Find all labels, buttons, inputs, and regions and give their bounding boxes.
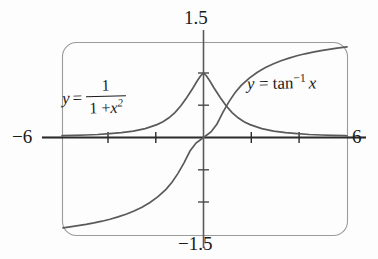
y-axis-min-label: −1.5 xyxy=(178,234,212,253)
denominator-exponent: 2 xyxy=(117,96,123,108)
y-axis-max-label: 1.5 xyxy=(184,8,208,27)
arctan-lhs: y xyxy=(247,74,255,93)
plot-canvas xyxy=(0,0,378,259)
arctan-equals: = xyxy=(259,74,269,93)
denominator-one: 1 + xyxy=(89,99,110,117)
arctan-function-name: tan xyxy=(272,73,293,92)
rational-fraction: 1 1 +x2 xyxy=(86,77,127,117)
x-axis-min-label: −6 xyxy=(12,127,32,146)
figure-container: 1.5 −1.5 −6 6 y = 1 1 +x2 y = tan−1x xyxy=(0,0,378,259)
rational-numerator: 1 xyxy=(96,77,114,95)
annotation-rational-function: y = 1 1 +x2 xyxy=(62,77,127,118)
x-axis-max-label: 6 xyxy=(352,127,362,146)
rational-denominator: 1 +x2 xyxy=(86,96,126,117)
arctan-inverse-exponent: −1 xyxy=(293,72,306,85)
rational-lhs: y xyxy=(62,89,70,107)
annotation-arctan-function: y = tan−1x xyxy=(247,72,317,93)
arctan-variable: x xyxy=(309,73,317,92)
rational-equals: = xyxy=(72,89,82,107)
